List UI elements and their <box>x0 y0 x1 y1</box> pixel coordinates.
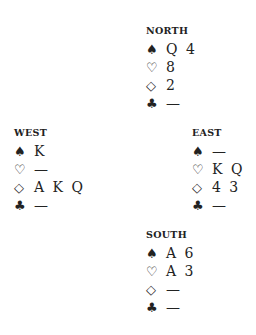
heart-icon: ♡ <box>146 264 166 279</box>
north-hand: NORTH ♠ Q 4 ♡ 8 ◇ 2 ♣ — <box>146 25 197 112</box>
east-label: EAST <box>192 127 244 138</box>
west-diamonds-row: ◇ A K Q <box>14 178 85 196</box>
heart-icon: ♡ <box>146 60 166 75</box>
north-spades-row: ♠ Q 4 <box>146 40 197 58</box>
west-label: WEST <box>14 127 85 138</box>
north-spades: Q 4 <box>166 41 197 57</box>
north-diamonds: 2 <box>166 77 177 93</box>
north-clubs: — <box>166 95 182 111</box>
north-clubs-row: ♣ — <box>146 94 197 112</box>
east-spades-row: ♠ — <box>192 142 244 160</box>
west-clubs-row: ♣ — <box>14 196 85 214</box>
east-hearts: K Q <box>212 161 244 177</box>
south-label: SOUTH <box>146 229 195 240</box>
south-diamonds: — <box>166 281 182 297</box>
south-diamonds-row: ◇ — <box>146 280 195 298</box>
club-icon: ♣ <box>192 198 212 213</box>
west-spades: K <box>34 143 46 159</box>
north-diamonds-row: ◇ 2 <box>146 76 197 94</box>
diamond-icon: ◇ <box>14 180 34 195</box>
north-label: NORTH <box>146 25 197 36</box>
south-hand: SOUTH ♠ A 6 ♡ A 3 ◇ — ♣ — <box>146 229 195 316</box>
west-clubs: — <box>34 197 50 213</box>
diamond-icon: ◇ <box>192 180 212 195</box>
east-clubs-row: ♣ — <box>192 196 244 214</box>
west-hearts: — <box>34 161 50 177</box>
club-icon: ♣ <box>146 300 166 315</box>
south-hearts-row: ♡ A 3 <box>146 262 195 280</box>
east-hearts-row: ♡ K Q <box>192 160 244 178</box>
west-hand: WEST ♠ K ♡ — ◇ A K Q ♣ — <box>14 127 85 214</box>
south-clubs-row: ♣ — <box>146 298 195 316</box>
spade-icon: ♠ <box>192 144 212 159</box>
north-hearts: 8 <box>166 59 177 75</box>
diamond-icon: ◇ <box>146 78 166 93</box>
heart-icon: ♡ <box>14 162 34 177</box>
west-spades-row: ♠ K <box>14 142 85 160</box>
east-clubs: — <box>212 197 228 213</box>
east-diamonds: 4 3 <box>212 179 240 195</box>
west-diamonds: A K Q <box>34 179 85 195</box>
south-spades: A 6 <box>166 245 195 261</box>
east-spades: — <box>212 143 228 159</box>
east-diamonds-row: ◇ 4 3 <box>192 178 244 196</box>
west-hearts-row: ♡ — <box>14 160 85 178</box>
club-icon: ♣ <box>146 96 166 111</box>
south-spades-row: ♠ A 6 <box>146 244 195 262</box>
spade-icon: ♠ <box>146 246 166 261</box>
spade-icon: ♠ <box>146 42 166 57</box>
north-hearts-row: ♡ 8 <box>146 58 197 76</box>
club-icon: ♣ <box>14 198 34 213</box>
east-hand: EAST ♠ — ♡ K Q ◇ 4 3 ♣ — <box>192 127 244 214</box>
south-clubs: — <box>166 299 182 315</box>
heart-icon: ♡ <box>192 162 212 177</box>
spade-icon: ♠ <box>14 144 34 159</box>
diamond-icon: ◇ <box>146 282 166 297</box>
south-hearts: A 3 <box>166 263 195 279</box>
